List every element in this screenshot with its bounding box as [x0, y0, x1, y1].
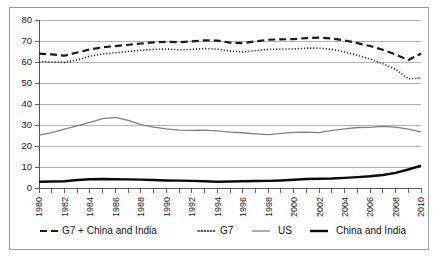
x-tick-label: 1990	[162, 197, 172, 217]
data-series	[39, 38, 421, 182]
x-tick-label: 2006	[365, 197, 375, 217]
legend-label-0: G7 + China and India	[62, 225, 157, 236]
legend-label-2: US	[278, 225, 292, 236]
x-tick-label: 1982	[60, 197, 70, 217]
chart-plot-area: 01020304050607080 1980198219841986198819…	[10, 8, 430, 251]
x-tick-label: 1996	[238, 197, 248, 217]
legend-label-1: G7	[220, 225, 234, 236]
series-line-3	[39, 166, 421, 182]
chart-frame: 01020304050607080 1980198219841986198819…	[9, 7, 429, 250]
y-tick-label: 40	[21, 98, 32, 109]
y-axis-tick-labels: 01020304050607080	[21, 14, 32, 193]
chart-legend: G7 + China and IndiaG7USChina and India	[40, 225, 406, 236]
x-tick-label: 1992	[187, 197, 197, 217]
y-tick-label: 80	[21, 14, 32, 25]
x-tick-label: 2000	[289, 197, 299, 217]
y-axis-ticks	[35, 20, 39, 188]
gridlines	[39, 20, 421, 188]
x-tick-label: 2002	[315, 197, 325, 217]
x-tick-label: 2010	[416, 197, 426, 217]
y-tick-label: 20	[21, 140, 32, 151]
y-tick-label: 0	[27, 182, 32, 193]
x-tick-label: 1998	[264, 197, 274, 217]
x-tick-label: 1988	[136, 197, 146, 217]
series-line-2	[39, 117, 421, 135]
y-tick-label: 30	[21, 119, 32, 130]
line-chart: 01020304050607080 1980198219841986198819…	[10, 8, 430, 251]
x-tick-label: 1980	[34, 197, 44, 217]
x-tick-label: 1994	[213, 197, 223, 217]
x-tick-label: 2008	[391, 197, 401, 217]
x-axis-ticks	[39, 188, 421, 193]
x-tick-label: 1984	[85, 197, 95, 217]
x-tick-label: 2004	[340, 197, 350, 217]
y-tick-label: 50	[21, 77, 32, 88]
y-tick-label: 70	[21, 35, 32, 46]
series-line-1	[39, 48, 421, 79]
legend-label-3: China and India	[336, 225, 406, 236]
y-tick-label: 60	[21, 56, 32, 67]
x-tick-label: 1986	[111, 197, 121, 217]
x-axis-tick-labels: 1980198219841986198819901992199419961998…	[34, 197, 426, 217]
y-tick-label: 10	[21, 161, 32, 172]
